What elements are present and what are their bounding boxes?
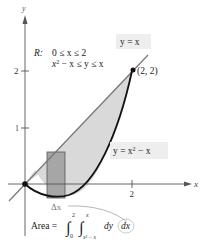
line-label: y = x bbox=[120, 37, 140, 47]
y-tick-label-1: 1 bbox=[15, 124, 19, 133]
outer-lower-limit: 0 bbox=[70, 233, 73, 239]
x-tick-label-2: 2 bbox=[130, 189, 135, 199]
y-axis-label: y bbox=[21, 4, 26, 13]
x-axis-label: x bbox=[193, 179, 198, 189]
area-prefix: Area = bbox=[31, 221, 57, 231]
outer-upper-limit: 2 bbox=[72, 212, 75, 218]
region-diagram: y x 2 1 2 R: 0 ≤ x ≤ 2 x2 − x ≤ y ≤ x y … bbox=[0, 0, 202, 252]
origin-point bbox=[22, 181, 28, 187]
delta-connector bbox=[68, 206, 127, 222]
region-label-r: R: bbox=[33, 48, 43, 58]
inner-lower-limit: x² − x bbox=[82, 234, 97, 240]
y-tick-label-2: 2 bbox=[14, 66, 19, 76]
region-line-1: 0 ≤ x ≤ 2 bbox=[52, 48, 86, 58]
point-label: (2, 2) bbox=[137, 66, 158, 77]
region-line-2: x2 − x ≤ y ≤ x bbox=[51, 59, 104, 70]
differential-dx: dx bbox=[121, 221, 131, 231]
x-axis-arrow-icon bbox=[184, 182, 192, 187]
inner-upper-limit: x bbox=[85, 212, 89, 218]
y-axis-arrow-icon bbox=[23, 15, 28, 24]
parabola-label: y = x2 − x bbox=[113, 146, 151, 157]
integrand-dy: dy bbox=[104, 221, 114, 231]
delta-x-label: Δx bbox=[51, 202, 62, 212]
point-2-2 bbox=[131, 68, 136, 73]
